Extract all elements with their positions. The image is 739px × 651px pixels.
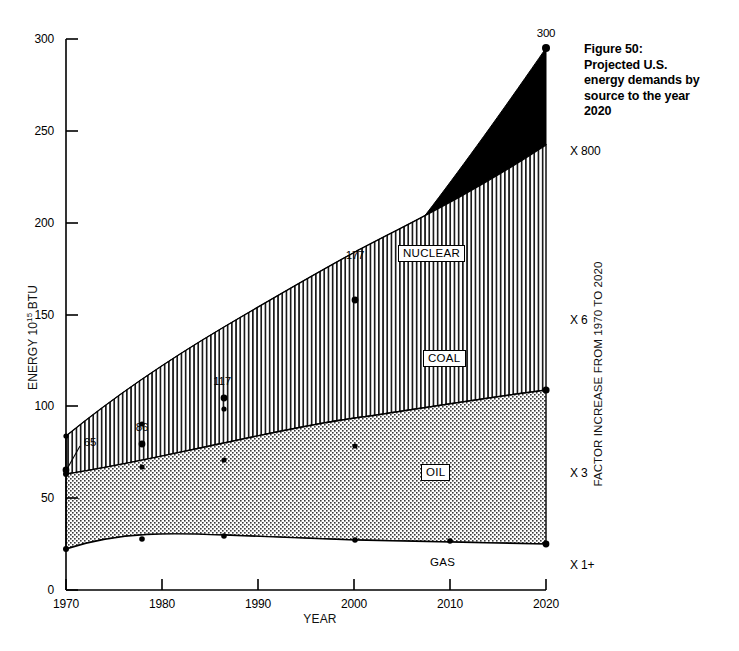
y-tick-50: 50	[14, 491, 54, 505]
x-tick-1970: 1970	[36, 597, 96, 611]
y-axis-label-unit: BTU	[26, 285, 40, 313]
x-axis-label: YEAR	[275, 612, 365, 626]
right-tick-oil: X 3	[570, 466, 587, 480]
value-label-86: 86	[124, 421, 160, 433]
y-axis-label-exponent: 15	[25, 313, 34, 322]
band-label-oil: OIL	[421, 464, 450, 481]
y-tick-300: 300	[14, 32, 54, 46]
x-tick-1980: 1980	[132, 597, 192, 611]
x-tick-2000: 2000	[324, 597, 384, 611]
y-tick-250: 250	[14, 124, 54, 138]
x-tick-1990: 1990	[228, 597, 288, 611]
figure-title: Figure 50: Projected U.S. energy demands…	[584, 42, 734, 120]
band-label-nuclear: NUCLEAR	[398, 245, 465, 262]
y-tick-200: 200	[14, 216, 54, 230]
band-label-gas: GAS	[430, 556, 455, 568]
value-label-300: 300	[528, 27, 564, 39]
x-tick-2010: 2010	[420, 597, 480, 611]
figure-50-chart: Figure 50: Projected U.S. energy demands…	[0, 0, 739, 651]
y-tick-0: 0	[14, 583, 54, 597]
x-tick-2020: 2020	[516, 597, 576, 611]
right-tick-coal: X 6	[570, 313, 587, 327]
right-axis-label: FACTOR INCREASE FROM 1970 TO 2020	[592, 249, 604, 499]
value-label-177: 177	[337, 249, 373, 261]
value-label-117: 117	[204, 375, 240, 387]
right-tick-nuclear: X 800	[570, 144, 600, 158]
y-axis-label: ENERGY 1015 BTU	[25, 243, 40, 433]
y-axis-label-text: ENERGY 10	[26, 322, 40, 390]
band-label-coal: COAL	[423, 350, 466, 367]
value-label-65: 65	[72, 436, 108, 448]
right-tick-gas: X 1+	[570, 558, 594, 572]
